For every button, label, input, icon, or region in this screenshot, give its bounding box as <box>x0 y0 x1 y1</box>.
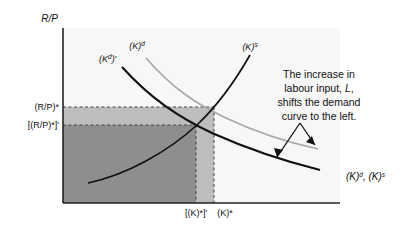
y-axis-title: R/P <box>41 13 58 24</box>
chart-canvas: R/P (K)d, (K)s (R/P)* [(R/P)*]' [(K)*]' … <box>0 0 411 231</box>
x-axis-title-mid: , (K) <box>363 171 382 182</box>
annotation-line-1: The increase in <box>283 68 355 80</box>
y-tick-label-shifted: [(R/P)*]' <box>28 120 60 130</box>
curve-label-demand-shifted: (Kd)' <box>99 53 117 64</box>
shaded-area-original-rental-top <box>63 107 196 125</box>
annotation-line-3: shifts the demand <box>278 96 361 108</box>
x-tick-label-shifted: [(K)*]' <box>185 208 208 218</box>
y-tick-label-original: (R/P)* <box>35 102 60 112</box>
economics-supply-demand-figure: R/P (K)d, (K)s (R/P)* [(R/P)*]' [(K)*]' … <box>0 0 411 231</box>
x-axis-title-sup-s: s <box>382 171 386 178</box>
x-axis-title: (K)d, (K)s <box>346 171 386 183</box>
annotation-line-4: curve to the left. <box>282 110 357 122</box>
shaded-area-original-rental-extra <box>196 107 214 203</box>
shaded-area-new-rental-income <box>63 125 196 203</box>
x-axis-title-base: (K) <box>346 171 359 182</box>
svg-text:(K)d, (K)s: (K)d, (K)s <box>346 171 386 183</box>
annotation-line-2: labour input, L, <box>284 82 353 94</box>
x-tick-label-original: (K)* <box>217 208 233 218</box>
